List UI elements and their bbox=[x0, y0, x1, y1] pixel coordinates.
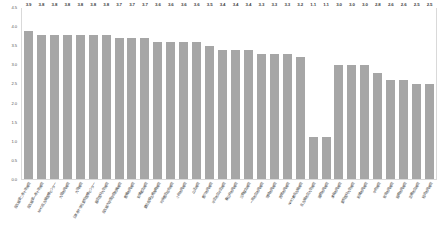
bar-slot: 3.9 bbox=[22, 8, 35, 179]
bar-value-label: 2.5 bbox=[414, 3, 420, 8]
bar-value-label: 3.9 bbox=[26, 3, 32, 8]
x-axis-tick-label: 碧南市民病院 bbox=[395, 182, 407, 199]
bar-value-label: 3.0 bbox=[349, 3, 355, 8]
bar: 3.6 bbox=[153, 42, 162, 179]
bar-value-label: 3.4 bbox=[233, 3, 239, 8]
x-axis-tick-label: 西尾市民病院 bbox=[278, 182, 290, 199]
bar-value-label: 3.4 bbox=[220, 3, 226, 8]
bar: 3.8 bbox=[76, 35, 85, 179]
x-axis-tick: 安城更生病院 bbox=[138, 181, 151, 239]
bar-slot: 3.4 bbox=[242, 8, 255, 179]
bar-slot: 3.0 bbox=[358, 8, 371, 179]
bar: 2.6 bbox=[386, 80, 395, 179]
bar-slot: 3.6 bbox=[151, 8, 164, 179]
x-axis-tick: 豊川市民病院 bbox=[203, 181, 216, 239]
x-axis-tick-label: 新城市民病院 bbox=[356, 182, 368, 199]
bar-slot: 2.6 bbox=[384, 8, 397, 179]
x-axis-tick-label: 安城更生病院 bbox=[136, 182, 148, 199]
bar-value-label: 3.6 bbox=[168, 3, 174, 8]
y-axis-tick-label: 1.0 bbox=[11, 140, 17, 144]
bar: 2.8 bbox=[373, 73, 382, 179]
bar: 3.7 bbox=[127, 38, 136, 179]
bar-slot: 3.5 bbox=[203, 8, 216, 179]
bar-slot: 3.7 bbox=[113, 8, 126, 179]
bars-container: 3.93.83.83.83.83.83.83.73.73.73.63.63.63… bbox=[22, 8, 436, 179]
x-axis-tick-label: 津島市民病院 bbox=[330, 182, 342, 199]
bar-value-label: 3.8 bbox=[52, 3, 58, 8]
y-axis-tick-label: 3.5 bbox=[11, 44, 17, 48]
bar-slot: 3.8 bbox=[100, 8, 113, 179]
bar-value-label: 3.5 bbox=[207, 3, 213, 8]
x-axis-tick: 新城市民病院 bbox=[358, 181, 371, 239]
bar-value-label: 3.6 bbox=[181, 3, 187, 8]
bar-value-label: 3.3 bbox=[284, 3, 290, 8]
bar-value-label: 3.6 bbox=[155, 3, 161, 8]
y-axis-tick-label: 2.0 bbox=[11, 101, 17, 105]
bar-slot: 2.5 bbox=[423, 8, 436, 179]
x-axis-tick: 常滑市民病院 bbox=[384, 181, 397, 239]
bar-slot: 3.8 bbox=[87, 8, 100, 179]
bar: 3.0 bbox=[334, 65, 343, 179]
bar-slot: 3.3 bbox=[268, 8, 281, 179]
bar: 3.4 bbox=[218, 50, 227, 179]
x-axis-tick-label: 蒲郡市民病院 bbox=[317, 182, 329, 199]
x-axis-tick: 西尾市民病院 bbox=[281, 181, 294, 239]
bar-slot: 1.1 bbox=[307, 8, 320, 179]
y-axis-tick-label: 4.0 bbox=[11, 25, 17, 29]
bar-value-label: 3.0 bbox=[362, 3, 368, 8]
bar: 3.0 bbox=[360, 65, 369, 179]
x-axis-tick: 山王病院 bbox=[190, 181, 203, 239]
bar-slot: 3.0 bbox=[345, 8, 358, 179]
bar: 3.8 bbox=[37, 35, 46, 179]
x-axis-tick: 蒲郡市民病院 bbox=[320, 181, 333, 239]
bar: 3.3 bbox=[257, 54, 266, 179]
bar-slot: 3.8 bbox=[48, 8, 61, 179]
bar-value-label: 2.5 bbox=[427, 3, 433, 8]
bar-slot: 2.6 bbox=[397, 8, 410, 179]
bar: 3.4 bbox=[244, 50, 253, 179]
bar: 3.6 bbox=[166, 42, 175, 179]
bar: 3.7 bbox=[115, 38, 124, 179]
x-axis-tick-label: 岡崎市民病院 bbox=[265, 182, 277, 199]
bar-slot: 3.3 bbox=[281, 8, 294, 179]
y-axis-tick-label: 4.5 bbox=[11, 6, 17, 10]
bar: 3.9 bbox=[24, 31, 33, 179]
bar-value-label: 3.7 bbox=[129, 3, 135, 8]
x-axis-tick-label: 小牧市民病院 bbox=[175, 182, 187, 199]
x-axis-tick: 豊橋市民病院 bbox=[126, 181, 139, 239]
bar-value-label: 3.4 bbox=[246, 3, 252, 8]
bar: 1.1 bbox=[309, 137, 318, 179]
bar: 3.7 bbox=[140, 38, 149, 179]
y-axis-tick-label: 3.0 bbox=[11, 63, 17, 67]
bar-value-label: 3.3 bbox=[271, 3, 277, 8]
bar: 3.8 bbox=[89, 35, 98, 179]
bar-value-label: 3.0 bbox=[336, 3, 342, 8]
x-axis-tick: 春日井市民病院 bbox=[229, 181, 242, 239]
bar: 3.5 bbox=[205, 46, 214, 179]
bar-value-label: 3.7 bbox=[142, 3, 148, 8]
x-axis-tick-label: 田原市立病院 bbox=[408, 182, 420, 199]
x-axis-tick: 田原市立病院 bbox=[410, 181, 423, 239]
bar: 3.0 bbox=[347, 65, 356, 179]
bar-slot: 3.8 bbox=[35, 8, 48, 179]
x-axis-tick: 一宮市立市民病院 bbox=[255, 181, 268, 239]
bar-slot: 3.7 bbox=[138, 8, 151, 179]
x-axis-tick: 日本赤十字社愛知医療センター bbox=[87, 181, 100, 239]
x-axis-tick-label: 大同病院 bbox=[74, 182, 83, 194]
x-axis-tick: 中京病院 bbox=[371, 181, 384, 239]
bar-slot: 3.6 bbox=[164, 8, 177, 179]
x-axis-tick: 名古屋市立大学病院 bbox=[307, 181, 320, 239]
bar: 3.6 bbox=[192, 42, 201, 179]
bar-value-label: 2.6 bbox=[388, 3, 394, 8]
x-axis-tick: 江南厚生病院 bbox=[242, 181, 255, 239]
bar: 3.8 bbox=[50, 35, 59, 179]
x-axis-tick: 名古屋第二赤十字病院 bbox=[22, 181, 35, 239]
x-axis-tick: 岡崎市民病院 bbox=[268, 181, 281, 239]
bar-slot: 3.3 bbox=[255, 8, 268, 179]
bar-slot: 2.5 bbox=[410, 8, 423, 179]
x-axis-tick: 稲沢市民病院 bbox=[423, 181, 436, 239]
bar-slot: 2.8 bbox=[371, 8, 384, 179]
x-axis-tick: 半田市立半田病院 bbox=[216, 181, 229, 239]
x-axis-tick-label: 大垣市民病院 bbox=[58, 182, 70, 199]
bar: 1.1 bbox=[322, 137, 331, 179]
